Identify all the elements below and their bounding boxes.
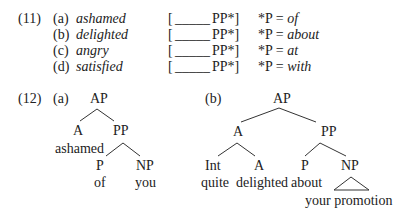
word-you: you — [135, 176, 156, 190]
word-quite: quite — [201, 176, 229, 190]
node-a: A — [233, 125, 243, 139]
node-ap: AP — [90, 92, 108, 106]
node-p: P — [96, 159, 104, 173]
tree-label: (b) — [205, 92, 221, 106]
word-ashamed: ashamed — [55, 142, 104, 156]
node-pp: PP — [113, 124, 129, 138]
node-a2: A — [254, 159, 264, 173]
tree-label: (a) — [53, 92, 69, 106]
node-a: A — [73, 124, 83, 138]
word-about: about — [291, 176, 322, 190]
node-int: Int — [205, 159, 221, 173]
word-your-promotion: your promotion — [305, 194, 393, 208]
node-np: NP — [136, 159, 154, 173]
node-np: NP — [341, 159, 359, 173]
node-pp: PP — [321, 125, 337, 139]
node-p: P — [301, 159, 309, 173]
node-ap: AP — [273, 92, 291, 106]
word-delighted: delighted — [236, 176, 288, 190]
word-of: of — [94, 176, 106, 190]
